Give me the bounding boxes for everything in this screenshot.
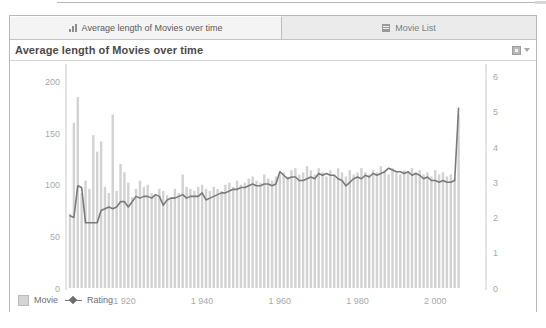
legend-swatch-movie [18,295,29,306]
svg-text:4: 4 [493,143,498,153]
svg-text:200: 200 [45,77,60,87]
page-title: Average length of Movies over time [15,44,203,56]
chevron-down-icon[interactable] [524,48,530,52]
chart-plot-area: 05010015020001234561 9201 9401 9601 9802… [10,61,536,312]
svg-text:150: 150 [45,129,60,139]
tab-average-length-of-movies-over-time[interactable]: Average length of Movies over time [10,16,282,39]
window-top-divider [57,2,535,3]
combo-bar-line-chart: 05010015020001234561 9201 9401 9601 9802… [10,61,536,312]
chart-toolbar [512,46,530,55]
legend-label-movie: Movie [34,295,58,305]
window-top-divider-end [535,1,546,4]
tab-strip: Average length of Movies over time Movie… [10,16,536,40]
svg-text:6: 6 [493,72,498,82]
bar-chart-icon [69,24,77,32]
svg-text:5: 5 [493,107,498,117]
svg-text:50: 50 [50,232,60,242]
svg-text:3: 3 [493,178,498,188]
chart-panel: Average length of Movies over time Movie… [9,15,537,312]
legend-item-movie: Movie [18,295,58,306]
svg-text:1: 1 [493,248,498,258]
tab-label: Movie List [395,23,436,33]
legend-marker-rating [65,297,82,304]
legend-item-rating: Rating [65,295,113,305]
tab-movie-list[interactable]: Movie List [282,16,536,39]
chart-settings-icon[interactable] [512,46,521,55]
chart-title-row: Average length of Movies over time [10,40,536,61]
legend-label-rating: Rating [87,295,113,305]
tab-label: Average length of Movies over time [82,23,223,33]
grid-table-icon [382,24,390,32]
svg-text:100: 100 [45,180,60,190]
chart-legend: Movie Rating [10,289,536,311]
svg-text:2: 2 [493,213,498,223]
